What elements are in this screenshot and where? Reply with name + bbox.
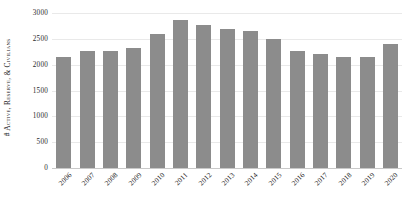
x-axis-tick-label: 2006 <box>57 171 73 187</box>
gridline <box>52 13 402 14</box>
bar <box>173 20 188 168</box>
x-axis-tick-label: 2016 <box>290 171 306 187</box>
x-axis-tick-label: 2009 <box>127 171 143 187</box>
bar <box>243 31 258 168</box>
bar-chart: # Active, Reserve, & Civilians 050010001… <box>0 0 408 211</box>
plot-area <box>52 13 402 168</box>
bar <box>290 51 305 168</box>
bar <box>150 34 165 168</box>
bar <box>126 48 141 168</box>
x-axis-tick-label: 2017 <box>314 171 330 187</box>
y-axis-tick-label: 2000 <box>4 61 48 69</box>
y-axis-tick-label: 1000 <box>4 112 48 120</box>
bar <box>383 44 398 168</box>
x-axis-tick-label: 2013 <box>220 171 236 187</box>
bar <box>56 57 71 168</box>
x-axis-tick-label: 2010 <box>150 171 166 187</box>
bar <box>336 57 351 168</box>
bar <box>220 29 235 169</box>
bar <box>196 25 211 168</box>
x-axis-tick-labels: 2006200720082009201020112012201320142015… <box>52 169 402 211</box>
y-axis-tick-label: 500 <box>4 138 48 146</box>
bar <box>360 57 375 168</box>
bar <box>313 54 328 168</box>
x-axis-tick-label: 2012 <box>197 171 213 187</box>
y-axis-tick-labels: 050010001500200025003000 <box>0 0 48 211</box>
x-axis-tick-label: 2008 <box>104 171 120 187</box>
x-axis-tick-label: 2007 <box>80 171 96 187</box>
x-axis-tick-label: 2019 <box>360 171 376 187</box>
x-axis-tick-label: 2018 <box>337 171 353 187</box>
bar <box>103 51 118 168</box>
x-axis-tick-label: 2014 <box>244 171 260 187</box>
bar <box>80 51 95 168</box>
bar <box>266 39 281 168</box>
y-axis-tick-label: 0 <box>4 164 48 172</box>
y-axis-tick-label: 3000 <box>4 9 48 17</box>
y-axis-tick-label: 1500 <box>4 87 48 95</box>
y-axis-tick-label: 2500 <box>4 35 48 43</box>
x-axis-tick-label: 2015 <box>267 171 283 187</box>
x-axis-tick-label: 2020 <box>384 171 400 187</box>
x-axis-tick-label: 2011 <box>174 171 190 187</box>
